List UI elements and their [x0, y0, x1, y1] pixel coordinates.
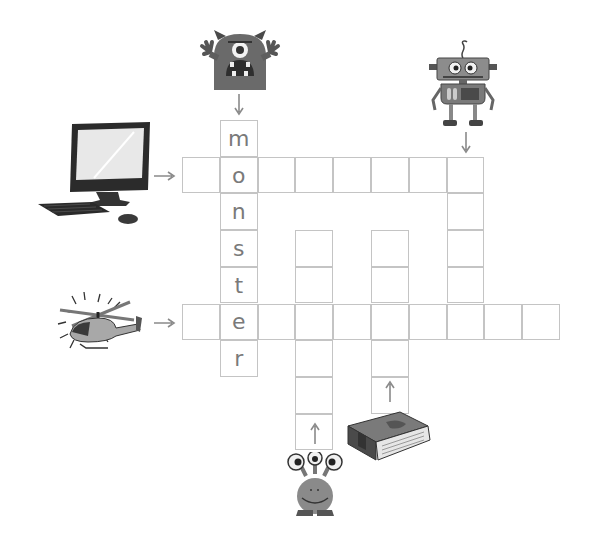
crossword-cell[interactable] [409, 157, 447, 194]
crossword-cell[interactable] [409, 304, 447, 341]
crossword-cell[interactable] [371, 157, 409, 194]
crossword-cell[interactable] [333, 157, 371, 194]
crossword-cell[interactable] [484, 304, 522, 341]
crossword-cell[interactable] [182, 157, 220, 194]
crossword-cell[interactable] [295, 230, 333, 267]
computer-icon [34, 120, 152, 226]
crossword-cell-letter[interactable]: e [220, 304, 258, 341]
alien-icon [286, 452, 344, 518]
arrow-down-icon [461, 132, 471, 154]
arrow-right-icon [154, 318, 176, 328]
crossword-cell[interactable] [522, 304, 560, 341]
crossword-cell[interactable] [295, 267, 333, 304]
crossword-cell-letter[interactable]: r [220, 340, 258, 377]
arrow-up-icon [385, 380, 395, 402]
robot-icon [425, 40, 501, 128]
crossword-cell[interactable] [258, 304, 296, 341]
crossword-cell[interactable] [447, 193, 485, 230]
crossword-cell[interactable] [371, 267, 409, 304]
book-icon [346, 410, 434, 462]
crossword-cell[interactable] [447, 230, 485, 267]
crossword-cell[interactable] [295, 377, 333, 414]
monster-icon [196, 28, 284, 92]
arrow-up-icon [310, 422, 320, 444]
crossword-cell-letter[interactable]: t [220, 267, 258, 304]
crossword-cell[interactable] [371, 230, 409, 267]
crossword-cell[interactable] [333, 304, 371, 341]
crossword-cell[interactable] [258, 157, 296, 194]
helicopter-icon [52, 290, 148, 354]
crossword-cell[interactable] [447, 267, 485, 304]
crossword-cell[interactable] [371, 304, 409, 341]
crossword-cell[interactable] [295, 304, 333, 341]
crossword-cell[interactable] [447, 157, 485, 194]
arrow-down-icon [234, 94, 244, 116]
crossword-cell-letter[interactable]: m [220, 120, 258, 157]
crossword-cell-letter[interactable]: n [220, 193, 258, 230]
crossword-cell[interactable] [182, 304, 220, 341]
crossword-cell[interactable] [447, 304, 485, 341]
crossword-cell[interactable] [371, 340, 409, 377]
crossword-cell-letter[interactable]: s [220, 230, 258, 267]
arrow-right-icon [154, 171, 176, 181]
crossword-cell[interactable] [295, 340, 333, 377]
crossword-cell[interactable] [295, 157, 333, 194]
crossword-cell-letter[interactable]: o [220, 157, 258, 194]
